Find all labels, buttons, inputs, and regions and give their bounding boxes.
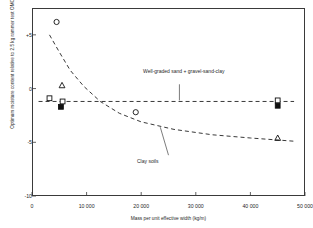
x-tick-label: 0 (12, 203, 52, 209)
chart-canvas (0, 0, 313, 228)
y-tick-label: +5 (12, 32, 32, 38)
x-axis-title: Mass per unit effective width (kg/m) (32, 216, 305, 221)
y-tick-label: -10 (12, 193, 32, 199)
trend-curves (39, 35, 295, 141)
x-tick-label: 10 000 (67, 203, 107, 209)
data-markers (47, 19, 281, 140)
x-tick-label: 30 000 (176, 203, 216, 209)
figure-container: Optimum moisture content relative to 2.5… (0, 0, 313, 228)
well-graded-label: Well-graded sand + gravel-sand-clay (143, 68, 224, 74)
axis-ticks (32, 35, 305, 196)
x-tick-label: 20 000 (121, 203, 161, 209)
annotation-leader-lines (160, 84, 179, 155)
y-axis-title: Optimum moisture content relative to 2.5… (10, 0, 15, 151)
clay-soils-label: Clay soils (137, 158, 158, 164)
x-tick-label: 40 000 (230, 203, 270, 209)
x-tick-label: 50 000 (285, 203, 313, 209)
y-tick-label: -5 (12, 139, 32, 145)
y-tick-label: 0 (12, 86, 32, 92)
